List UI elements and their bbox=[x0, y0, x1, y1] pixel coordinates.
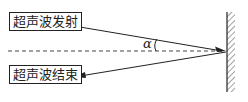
wall-hatch bbox=[227, 12, 235, 92]
end-label-box: 超声波结束 bbox=[9, 65, 82, 84]
angle-arc bbox=[155, 39, 157, 51]
emit-arrowhead bbox=[215, 47, 226, 53]
emit-label-box: 超声波发射 bbox=[9, 12, 82, 31]
end-ray bbox=[80, 52, 226, 76]
angle-label: α bbox=[143, 36, 152, 51]
